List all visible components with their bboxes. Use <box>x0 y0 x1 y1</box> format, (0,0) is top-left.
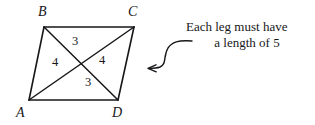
vertex-label-C: C <box>128 5 137 19</box>
diagonal-AC <box>29 27 134 100</box>
side-CD <box>118 27 134 100</box>
vertex-label-D: D <box>112 106 122 120</box>
annotation-line-1: Each leg must have <box>186 19 314 35</box>
segment-label-right: 4 <box>99 54 105 67</box>
annotation-note: Each leg must have a length of 5 <box>186 19 314 50</box>
side-AB <box>29 27 44 100</box>
annotation-line-2: a length of 5 <box>186 35 314 51</box>
segment-label-bottom: 3 <box>85 76 91 89</box>
figure-canvas: B C A D 3 4 4 3 Each leg must have a len… <box>0 0 315 125</box>
vertex-label-A: A <box>16 106 25 120</box>
segment-label-left: 4 <box>52 56 58 69</box>
vertex-label-B: B <box>38 5 47 19</box>
segment-label-top: 3 <box>72 35 78 48</box>
